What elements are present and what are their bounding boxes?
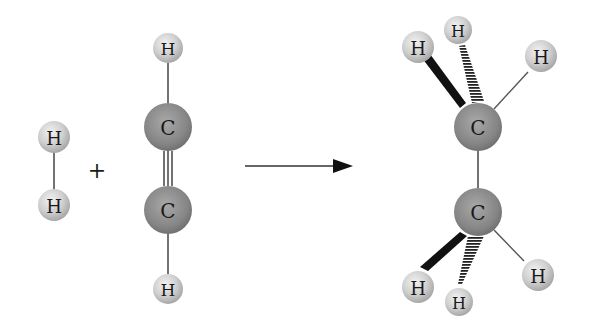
hydrogen-atom: H [445,288,473,316]
svg-text:C: C [160,199,175,223]
svg-text:H: H [530,266,546,287]
carbon-atom: C [144,103,192,151]
dash-bond [459,45,484,103]
single-bond [494,72,528,109]
acetylene-molecule: H C C H [144,33,192,304]
svg-text:H: H [410,38,426,59]
hydrogen-atom: H [444,16,472,44]
triple-bond [164,151,172,186]
wedge-bond [420,232,467,271]
svg-text:H: H [451,22,465,41]
reaction-diagram: H H + H C C H [0,0,592,336]
wedge-bond [422,54,466,108]
svg-text:H: H [46,128,62,149]
hydrogen-atom: H [525,40,557,72]
svg-text:C: C [160,116,175,140]
svg-text:C: C [470,201,485,225]
single-bond [494,230,524,261]
carbon-atom: C [144,186,192,234]
hydrogen-atom: H [38,189,70,221]
hydrogen-atom: H [153,33,183,63]
hydrogen-atom: H [38,121,70,153]
svg-text:H: H [533,47,549,68]
hydrogen-atom: H [522,259,554,291]
svg-text:H: H [452,294,466,313]
svg-text:H: H [46,196,62,217]
hydrogen-atom: H [153,274,183,304]
carbon-atom: C [454,188,502,236]
svg-text:C: C [470,116,485,140]
plus-sign: + [88,158,106,183]
dash-bond [458,236,484,284]
carbon-atom: C [454,103,502,151]
svg-text:H: H [410,278,426,299]
ethane-molecule: H H H C C H H H [402,16,557,316]
svg-text:H: H [161,39,176,59]
hydrogen-molecule: H H [38,121,70,221]
reaction-arrow [245,159,353,173]
svg-text:H: H [161,280,176,300]
hydrogen-atom: H [402,31,434,63]
hydrogen-atom: H [402,271,434,303]
